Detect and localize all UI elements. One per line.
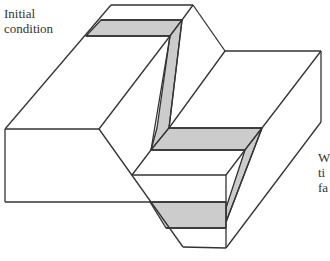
right-truncated-label: Wtifa bbox=[318, 150, 330, 195]
lower-gray-band bbox=[150, 202, 226, 228]
right-label-line2: ti bbox=[318, 165, 325, 180]
initial-condition-label: Initialcondition bbox=[4, 6, 53, 36]
right-label-line1: W bbox=[318, 150, 330, 165]
upper-gray-band bbox=[86, 20, 182, 36]
initial-label-line2: condition bbox=[4, 21, 53, 36]
right-label-line3: fa bbox=[318, 180, 328, 195]
initial-label-line1: Initial bbox=[4, 6, 35, 21]
middle-gray-band bbox=[151, 128, 262, 150]
